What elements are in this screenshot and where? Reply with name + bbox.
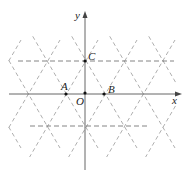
x-axis-label: x — [171, 94, 177, 106]
lattice-diagram: y x C A B O — [0, 0, 191, 186]
point-a — [64, 92, 67, 95]
label-b: B — [108, 83, 115, 95]
label-c: C — [88, 50, 96, 62]
label-a: A — [60, 80, 68, 92]
y-axis-arrow-icon — [83, 11, 88, 18]
point-b — [102, 92, 105, 95]
triangular-grid — [0, 0, 191, 186]
y-axis-label: y — [74, 9, 80, 21]
label-o: O — [76, 95, 84, 107]
point-c — [83, 59, 86, 62]
